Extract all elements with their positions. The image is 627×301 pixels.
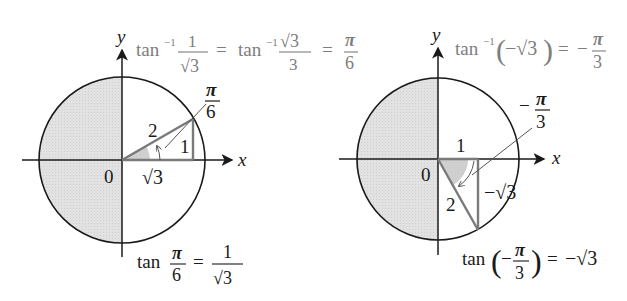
formula-eq: =	[216, 39, 227, 60]
right-y-label: y	[430, 24, 441, 45]
left-y-label: y	[115, 26, 126, 47]
formula-num: π	[515, 240, 526, 260]
formula-den: √3	[213, 268, 232, 288]
right-pointer-line	[472, 128, 532, 175]
right-angle-label-num: π	[536, 88, 547, 109]
left-adjacent-label: √3	[142, 166, 163, 188]
formula-den: 3	[593, 52, 602, 72]
formula-eq: =	[547, 248, 558, 269]
left-unit-circle-diagram: y x 0 2 1 √3 π 6 tan −1 1 √3 = tan −1 √3…	[22, 26, 358, 288]
left-angle-label-num: π	[206, 79, 217, 100]
left-origin-label: 0	[104, 166, 114, 187]
right-x-label: x	[551, 147, 561, 168]
formula-sup: −1	[266, 36, 278, 48]
formula-tan: tan	[455, 38, 479, 59]
right-top-formula: tan −1 ( −√3 ) = − π 3	[455, 29, 606, 72]
right-angle-wedge	[438, 159, 468, 185]
right-angle-label-den: 3	[536, 111, 546, 132]
formula-num: √3	[280, 31, 299, 51]
formula-den: 6	[172, 265, 181, 285]
left-angle-label-den: 6	[206, 101, 216, 122]
formula-den: 3	[289, 55, 298, 74]
right-origin-label: 0	[421, 164, 431, 185]
formula-num: 1	[223, 242, 232, 262]
formula-tan: tan	[137, 251, 161, 272]
formula-sign: −	[501, 248, 512, 269]
inverse-tangent-diagram: y x 0 2 1 √3 π 6 tan −1 1 √3 = tan −1 √3…	[0, 0, 627, 301]
formula-num: 1	[188, 32, 197, 51]
right-angle-label-sign: −	[519, 95, 530, 116]
formula-tan: tan	[462, 248, 486, 269]
left-top-formula: tan −1 1 √3 = tan −1 √3 3 = π 6	[136, 30, 358, 76]
formula-paren: )	[531, 243, 542, 279]
formula-den: 6	[345, 53, 354, 73]
formula-result: −√3	[565, 247, 597, 269]
formula-eq: =	[193, 251, 204, 272]
formula-tan: tan	[136, 39, 160, 60]
left-hypotenuse-label: 2	[148, 120, 158, 141]
formula-num: π	[593, 29, 604, 49]
left-bottom-formula: tan π 6 = 1 √3	[137, 242, 243, 288]
left-x-label: x	[237, 149, 247, 170]
formula-eq: =	[322, 39, 333, 60]
formula-den: √3	[180, 56, 199, 76]
formula-den: 3	[515, 263, 524, 283]
right-unit-circle-diagram: y x 0 1 2 −√3 − π 3 tan −1 ( −√3 ) = − π…	[339, 24, 606, 283]
formula-sup: −1	[164, 36, 176, 48]
right-hypotenuse-label: 2	[446, 194, 456, 215]
right-adjacent-label: 1	[456, 135, 466, 156]
formula-arg: −√3	[505, 37, 537, 59]
formula-sign: −	[577, 38, 588, 59]
left-angle-arc	[157, 146, 160, 160]
left-opposite-label: 1	[180, 136, 190, 157]
formula-num: π	[172, 243, 183, 263]
formula-tan: tan	[238, 39, 262, 60]
formula-paren: )	[543, 33, 553, 67]
formula-eq: =	[558, 38, 569, 59]
right-opposite-label: −√3	[484, 181, 516, 203]
formula-num: π	[345, 30, 356, 50]
formula-sup: −1	[483, 35, 495, 47]
right-bottom-formula: tan ( − π 3 ) = −√3	[462, 240, 597, 283]
